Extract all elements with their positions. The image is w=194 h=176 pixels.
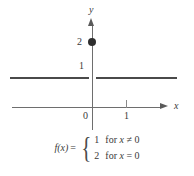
arrow-up-icon — [88, 18, 94, 26]
case-variable: x — [120, 134, 124, 145]
piecewise-formula: f(x) = { 1 for x ≠ 0 2 for x = 0 — [0, 132, 194, 162]
x-axis-line — [12, 107, 162, 108]
case-for-word: for — [105, 150, 117, 161]
case-condition: for x = 0 — [105, 150, 139, 161]
case-value: 2 — [94, 150, 105, 161]
case-rhs: 0 — [134, 134, 139, 145]
arrow-right-icon — [160, 103, 168, 109]
case-row: 2 for x = 0 — [94, 150, 139, 161]
case-relation: = — [126, 150, 132, 161]
case-row: 1 for x ≠ 0 — [94, 134, 139, 145]
case-variable: x — [120, 150, 124, 161]
function-segment-right — [96, 77, 177, 79]
case-condition: for x ≠ 0 — [105, 134, 139, 145]
y-tick-label-2: 2 — [77, 37, 82, 47]
case-relation: ≠ — [126, 134, 132, 145]
function-segment-left — [10, 77, 89, 79]
piecewise-function-figure: x y 0 1 1 2 f(x) = { 1 for x ≠ 0 2 for x… — [0, 0, 194, 176]
y-axis-label: y — [89, 5, 93, 15]
x-axis-label: x — [174, 101, 178, 111]
equals-sign: = — [70, 142, 76, 153]
data-point-filled-circle — [88, 38, 96, 46]
open-brace: { — [81, 132, 91, 162]
y-tick-label-1: 1 — [79, 61, 84, 71]
case-for-word: for — [105, 134, 117, 145]
origin-label: 0 — [83, 111, 88, 121]
cases-list: 1 for x ≠ 0 2 for x = 0 — [94, 134, 139, 161]
x-tick-label-1: 1 — [124, 111, 129, 121]
case-rhs: 0 — [135, 150, 140, 161]
x-axis-tick-1 — [126, 100, 127, 108]
case-value: 1 — [94, 134, 105, 145]
function-name: f(x) — [54, 142, 68, 153]
